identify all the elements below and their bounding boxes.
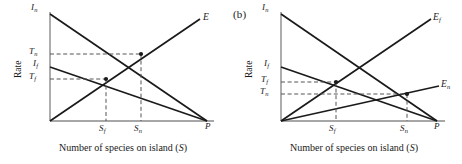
curve-extinction-small-island-b — [281, 19, 431, 121]
y-tick-Tn-b: Tn — [260, 86, 268, 96]
y-tick-In-a: In — [31, 2, 37, 12]
curve-immigration-far-a — [50, 67, 207, 121]
y-axis-title-b: Rate — [244, 61, 254, 78]
x-axis-title-b: Number of species on island (S) — [259, 142, 449, 153]
y-tick-If-a: If — [33, 58, 38, 68]
x-tick-Sf-a: Sf — [99, 123, 105, 133]
y-tick-If-b: If — [264, 58, 269, 68]
equilibrium-point-far-b — [334, 80, 338, 84]
curve-extinction-a — [50, 19, 200, 121]
y-tick-In-b: In — [262, 2, 268, 12]
x-tick-P-b: P — [434, 121, 440, 131]
y-tick-Tf-b: Tf — [261, 74, 268, 84]
y-axis-title-a: Rate — [13, 61, 23, 78]
chart-panel-a: Rate In Tn If Tf Sf Sn P E Numb — [0, 0, 231, 164]
curve-label-E-a: E — [203, 12, 209, 22]
x-tick-Sf-b: Sf — [329, 123, 335, 133]
y-tick-Tf-a: Tf — [29, 71, 36, 81]
figure-container: Rate In Tn If Tf Sf Sn P E Numb — [0, 0, 462, 164]
x-tick-Sn-a: Sn — [134, 123, 142, 133]
equilibrium-point-near-a — [139, 52, 143, 56]
equilibrium-point-far-a — [104, 77, 108, 81]
equilibrium-point-near-b — [405, 92, 409, 96]
x-tick-P-a: P — [205, 121, 211, 131]
chart-panel-b: (b) Rate In — [231, 0, 462, 164]
panel-a-plot — [0, 0, 231, 164]
curve-label-Ef-b: Ef — [433, 12, 441, 22]
curve-label-En-b: En — [441, 79, 450, 89]
y-tick-Tn-a: Tn — [29, 46, 37, 56]
x-axis-title-a: Number of species on island (S) — [28, 142, 218, 153]
curve-extinction-large-island-b — [281, 86, 439, 121]
x-tick-Sn-b: Sn — [400, 123, 408, 133]
